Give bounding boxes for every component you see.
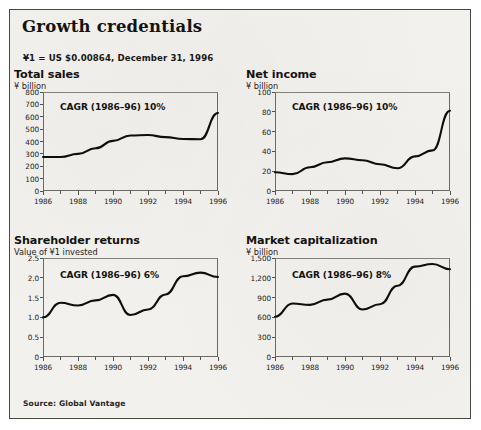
chart-title: Market capitalization <box>246 234 378 247</box>
data-series-line <box>43 273 218 318</box>
x-axis-tick-label: 1988 <box>295 197 325 206</box>
x-axis-tick-label: 1988 <box>63 197 93 206</box>
series-layer <box>246 258 456 359</box>
plot-area: CAGR (1986–96) 10%0100200300400500600700… <box>14 92 224 213</box>
x-axis-tick-label: 1994 <box>168 197 198 206</box>
x-axis-tick-label: 1992 <box>365 197 395 206</box>
plot-area: CAGR (1986–96) 6%00.51.01.52.02.51986198… <box>14 258 224 379</box>
data-series-line <box>275 264 450 317</box>
x-axis-tick-label: 1996 <box>435 197 465 206</box>
x-axis-tick-label: 1988 <box>295 363 325 372</box>
chart-title: Shareholder returns <box>14 234 140 247</box>
x-axis-tick-label: 1990 <box>98 197 128 206</box>
x-axis-tick-label: 1992 <box>365 363 395 372</box>
x-axis-tick-label: 1990 <box>330 197 360 206</box>
plot-area: CAGR (1986–96) 10%0204060801001986198819… <box>246 92 456 213</box>
x-axis-tick-label: 1994 <box>168 363 198 372</box>
x-axis-tick-label: 1986 <box>260 363 290 372</box>
page-title: Growth credentials <box>22 17 202 36</box>
series-layer <box>246 92 456 193</box>
x-axis-tick-label: 1996 <box>435 363 465 372</box>
x-axis-tick-label: 1988 <box>63 363 93 372</box>
x-axis-tick-label: 1994 <box>400 363 430 372</box>
x-axis-tick-label: 1990 <box>98 363 128 372</box>
x-axis-tick-label: 1996 <box>203 197 233 206</box>
data-series-line <box>43 113 218 157</box>
x-axis-tick-label: 1986 <box>28 363 58 372</box>
x-axis-tick-label: 1994 <box>400 197 430 206</box>
chart-title: Total sales <box>14 68 80 81</box>
data-series-line <box>275 111 450 174</box>
x-axis-tick-label: 1992 <box>133 197 163 206</box>
plot-area: CAGR (1986–96) 8%03006009001,2001,500198… <box>246 258 456 379</box>
exchange-rate-note: ¥1 = US $0.00864, December 31, 1996 <box>23 53 213 63</box>
x-axis-tick-label: 1992 <box>133 363 163 372</box>
chart-title: Net income <box>246 68 317 81</box>
x-axis-tick-label: 1986 <box>260 197 290 206</box>
source-note: Source: Global Vantage <box>23 399 126 408</box>
x-axis-tick-label: 1996 <box>203 363 233 372</box>
x-axis-tick-label: 1990 <box>330 363 360 372</box>
series-layer <box>14 258 224 359</box>
series-layer <box>14 92 224 193</box>
exhibit-card: Growth credentials ¥1 = US $0.00864, Dec… <box>9 9 471 419</box>
x-axis-tick-label: 1986 <box>28 197 58 206</box>
